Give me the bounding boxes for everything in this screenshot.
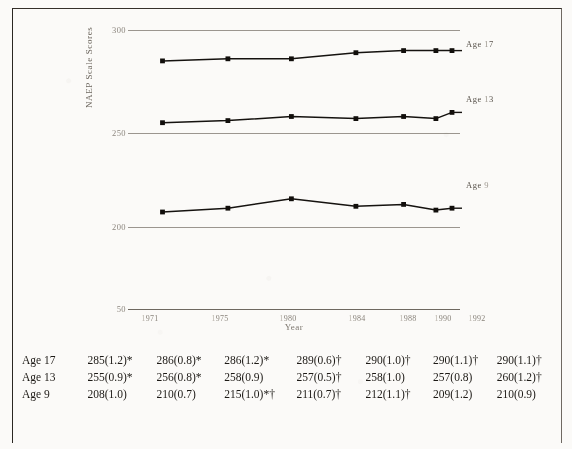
table-cell-value: 290(1.0)†	[365, 352, 433, 369]
table-cell-value: 290(1.1)†	[433, 352, 497, 369]
table-cell-value: 258(1.0)	[365, 369, 433, 386]
chart-plot-area: 300 250 200 50 1971 1975 1980 1984 1988 …	[128, 22, 460, 310]
table-cell-value: 260(1.2)†	[497, 369, 552, 386]
table-cell-value: 289(0.6)†	[296, 352, 365, 369]
y-tick-label: 50	[117, 304, 126, 314]
table-cell-value: 210(0.9)	[497, 386, 552, 403]
table-cell-value: 208(1.0)	[87, 386, 156, 403]
table-cell-value: 286(0.8)*	[156, 352, 224, 369]
table-cell-value: 210(0.7)	[156, 386, 224, 403]
y-tick-label: 250	[112, 128, 126, 138]
table-cell-value: 215(1.0)*†	[224, 386, 296, 403]
table-row: Age 9208(1.0)210(0.7)215(1.0)*†211(0.7)†…	[22, 386, 552, 403]
table-cell-value: 258(0.9)	[224, 369, 296, 386]
table-row-label: Age 17	[22, 352, 87, 369]
table-row-label: Age 9	[22, 386, 87, 403]
table-row-label: Age 13	[22, 369, 87, 386]
table-cell-value: 290(1.1)†	[497, 352, 552, 369]
table-cell-value: 285(1.2)*	[87, 352, 156, 369]
chart-lines	[128, 22, 460, 310]
x-axis-title: Year	[128, 322, 460, 332]
figure-caption	[22, 436, 552, 448]
table-cell-value: 212(1.1)†	[365, 386, 433, 403]
table-cell-value: 209(1.2)	[433, 386, 497, 403]
table-cell-value: 255(0.9)*	[87, 369, 156, 386]
y-tick-label: 300	[112, 25, 126, 35]
x-tick-label: 1992	[468, 314, 485, 323]
table-row: Age 13255(0.9)*256(0.8)*258(0.9)257(0.5)…	[22, 369, 552, 386]
series-label-age-13: Age 13	[466, 94, 494, 104]
y-axis-title: NAEP Scale Scores	[84, 27, 94, 108]
table-cell-value: 256(0.8)*	[156, 369, 224, 386]
table-row: Age 17285(1.2)*286(0.8)*286(1.2)*289(0.6…	[22, 352, 552, 369]
series-label-age-9: Age 9	[466, 180, 489, 190]
series-label-age-17: Age 17	[466, 39, 494, 49]
table-cell-value: 211(0.7)†	[296, 386, 365, 403]
y-tick-label: 200	[112, 222, 126, 232]
table-cell-value: 257(0.8)	[433, 369, 497, 386]
table-cell-value: 257(0.5)†	[296, 369, 365, 386]
table-cell-value: 286(1.2)*	[224, 352, 296, 369]
data-table: Age 17285(1.2)*286(0.8)*286(1.2)*289(0.6…	[22, 352, 552, 403]
